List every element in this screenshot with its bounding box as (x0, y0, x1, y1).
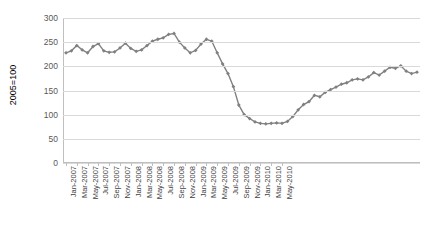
data-point-marker (275, 121, 279, 125)
x-tick-label: Mar-2009 (209, 166, 218, 198)
y-tick-label: 0 (18, 158, 58, 168)
chart-container: 2005=100 050100150200250300 Jan-2007Mar-… (0, 0, 432, 225)
x-tick-label: Mar-2007 (80, 166, 89, 198)
gridline (63, 139, 420, 140)
y-tick-label: 50 (18, 134, 58, 144)
x-tick-label: Jul-2007 (101, 166, 110, 195)
x-tick-label: Mar-2008 (145, 166, 154, 198)
x-tick-label: May-2009 (220, 166, 229, 199)
x-tick-label: Jan-2009 (199, 166, 208, 197)
x-tick-label: Sep-2008 (177, 166, 186, 199)
data-point-marker (156, 37, 160, 41)
y-tick-label: 150 (18, 86, 58, 96)
y-tick-label: 100 (18, 110, 58, 120)
y-tick-label: 200 (18, 61, 58, 71)
data-point-marker (280, 121, 284, 125)
data-point-marker (356, 77, 360, 81)
x-axis-tick-labels: Jan-2007Mar-2007May-2007Jul-2007Sep-2007… (63, 166, 420, 224)
gridline (63, 91, 420, 92)
x-tick-label: Nov-2009 (253, 166, 262, 199)
x-tick-label: Jul-2009 (231, 166, 240, 195)
plot-area (63, 18, 420, 163)
gridline (63, 66, 420, 67)
series-polyline (66, 33, 417, 123)
x-tick-label: Sep-2009 (242, 166, 251, 199)
x-tick-label: Nov-2007 (123, 166, 132, 199)
data-point-marker (264, 122, 268, 126)
data-point-marker (64, 51, 68, 55)
gridline (63, 42, 420, 43)
x-tick-label: May-2008 (155, 166, 164, 199)
gridline (63, 115, 420, 116)
x-tick-label: Jan-2010 (263, 166, 272, 197)
data-point-marker (232, 85, 236, 89)
x-tick-label: May-2010 (285, 166, 294, 199)
data-point-marker (259, 121, 263, 125)
x-tick-label: Jan-2007 (69, 166, 78, 197)
x-tick-label: May-2007 (91, 166, 100, 199)
y-tick-label: 300 (18, 13, 58, 23)
data-point-marker (107, 50, 111, 54)
x-tick-label: Sep-2007 (112, 166, 121, 199)
y-tick-label: 250 (18, 37, 58, 47)
data-point-marker (269, 121, 273, 125)
gridline (63, 163, 420, 164)
x-tick-label: Jul-2008 (166, 166, 175, 195)
data-point-marker (415, 70, 419, 74)
gridline (63, 18, 420, 19)
x-tick-label: Mar-2010 (274, 166, 283, 198)
x-tick-label: Jan-2008 (134, 166, 143, 197)
x-tick-label: Nov-2008 (188, 166, 197, 199)
